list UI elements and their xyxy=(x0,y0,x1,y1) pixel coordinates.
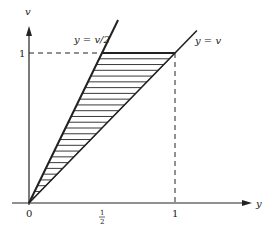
x-axis-label: y xyxy=(255,198,262,209)
x-tick-label-half-numerator: 1 xyxy=(100,209,104,217)
x-tick-label-half-denominator: 2 xyxy=(100,218,104,226)
line-label-v: y = v xyxy=(194,35,221,46)
y-tick-label-1: 1 xyxy=(19,48,25,59)
line-y-equals-v xyxy=(29,31,197,204)
line-label-v-over-2: y = v/2 xyxy=(73,34,110,45)
line-y-equals-v-over-2 xyxy=(29,20,118,203)
y-axis-arrow-icon xyxy=(26,26,32,36)
x-tick-label-0: 0 xyxy=(26,208,32,219)
diagram-canvas: y v 0 1 2 1 1 y = v/2 y = v xyxy=(0,0,274,232)
x-tick-label-1: 1 xyxy=(172,208,178,219)
x-axis-arrow-icon xyxy=(242,200,252,206)
y-axis-label: v xyxy=(25,6,31,17)
